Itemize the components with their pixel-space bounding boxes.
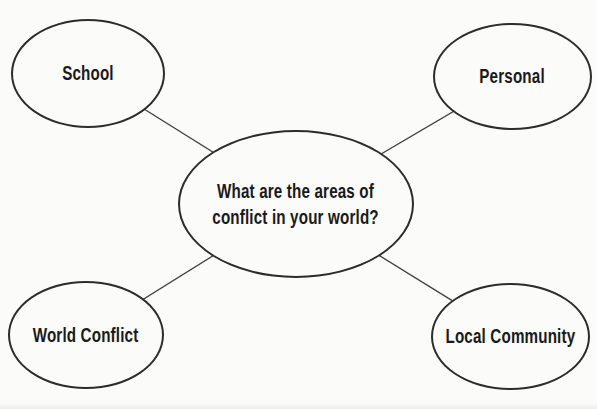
node-local-community: Local Community bbox=[431, 283, 590, 390]
node-personal-label: Personal bbox=[480, 65, 545, 88]
node-school: School bbox=[11, 19, 165, 128]
node-world-conflict: World Conflict bbox=[8, 281, 164, 389]
center-question-label: What are the areas of conflict in your w… bbox=[213, 178, 379, 230]
node-local-community-label: Local Community bbox=[446, 325, 576, 348]
node-school-label: School bbox=[62, 62, 114, 85]
conflict-concept-map: School Personal What are the areas of co… bbox=[0, 0, 597, 409]
center-question-line-1: What are the areas of bbox=[213, 178, 379, 204]
center-question-line-2: conflict in your world? bbox=[213, 204, 379, 230]
node-world-conflict-label: World Conflict bbox=[33, 324, 139, 347]
node-center-question: What are the areas of conflict in your w… bbox=[178, 130, 414, 278]
node-personal: Personal bbox=[433, 23, 592, 130]
